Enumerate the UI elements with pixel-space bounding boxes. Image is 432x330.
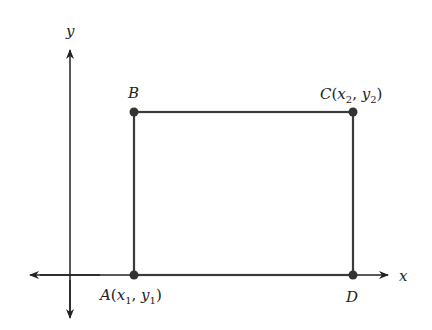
y-axis-label: y: [65, 22, 75, 40]
rectangle-abcd: [134, 112, 353, 275]
x-axis-label: x: [399, 267, 408, 285]
point-a-label: A(x1, y1): [98, 286, 162, 306]
point-a: [130, 271, 139, 280]
point-d: [349, 271, 358, 280]
point-b-label: B: [127, 84, 139, 102]
point-c: [349, 108, 358, 117]
coordinate-diagram: y x B D A(x1, y1) C(x2, y2): [0, 0, 432, 330]
point-c-label: C(x2, y2): [320, 85, 382, 105]
point-d-label: D: [345, 288, 358, 306]
point-b: [130, 108, 139, 117]
